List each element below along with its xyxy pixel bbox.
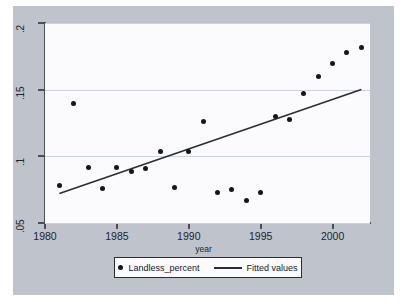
x-tick-label: 2000 — [321, 230, 344, 242]
plot-area — [45, 23, 370, 223]
data-point — [273, 114, 278, 119]
data-point — [244, 198, 249, 203]
data-point — [215, 190, 220, 195]
x-tick-label: 1995 — [249, 230, 272, 242]
x-tick-label: 1985 — [105, 230, 128, 242]
legend-label-fitted-values: Fitted values — [247, 263, 298, 273]
x-tick-label: 1990 — [177, 230, 200, 242]
data-point — [316, 74, 321, 79]
data-point — [143, 166, 148, 171]
legend-label-landless-percent: Landless_percent — [128, 263, 199, 273]
chart-legend: Landless_percent Fitted values — [114, 257, 302, 278]
legend-item-fitted-values: Fitted values — [214, 263, 298, 273]
data-point — [186, 149, 191, 154]
fitted-values-line — [45, 23, 370, 223]
legend-item-landless-percent: Landless_percent — [118, 263, 199, 273]
y-tick-label: .1 — [15, 158, 26, 166]
y-tick-mark — [38, 89, 44, 91]
data-point — [330, 61, 335, 66]
data-point — [201, 119, 206, 124]
stata-graph-figure: .05.1.15.2 19801985199019952000 year Lan… — [13, 6, 394, 295]
data-point — [114, 165, 119, 170]
filled-circle-icon — [118, 265, 123, 270]
y-tick-label: .05 — [15, 220, 26, 233]
data-point — [158, 149, 163, 154]
line-swatch-icon — [214, 267, 242, 269]
data-point — [359, 45, 364, 50]
y-tick-mark — [38, 22, 44, 24]
data-point — [100, 186, 105, 191]
y-tick-label: .2 — [15, 25, 26, 33]
data-point — [71, 101, 76, 106]
data-point — [172, 185, 177, 190]
data-point — [129, 169, 134, 174]
x-tick-label: 1980 — [33, 230, 56, 242]
x-axis-title: year — [13, 244, 394, 254]
data-point — [287, 117, 292, 122]
gridline — [45, 223, 370, 224]
data-point — [86, 165, 91, 170]
y-tick-label: .15 — [15, 86, 26, 99]
y-tick-mark — [38, 155, 44, 157]
